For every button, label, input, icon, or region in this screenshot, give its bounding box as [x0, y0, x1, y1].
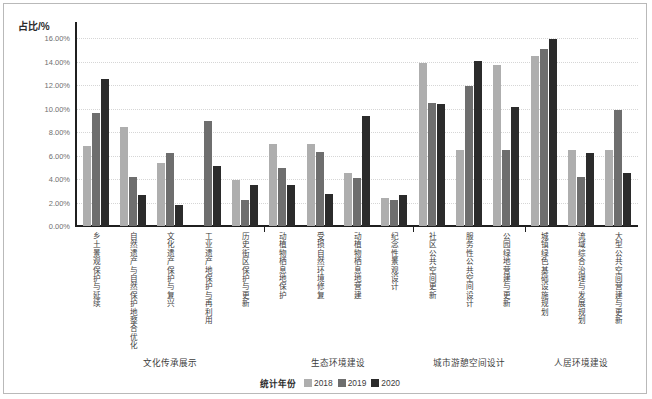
group-label: 城市游憩空间设计 — [433, 356, 505, 368]
legend: 统计年份 201820192020 — [4, 377, 652, 389]
bar[interactable] — [399, 195, 407, 226]
bar-group — [413, 38, 450, 226]
bar[interactable] — [278, 168, 286, 226]
bar[interactable] — [511, 107, 519, 226]
bar[interactable] — [419, 63, 427, 226]
group-label: 人居环境建设 — [554, 356, 608, 368]
y-axis-tick-label: 12.00% — [12, 81, 70, 90]
bar[interactable] — [437, 104, 445, 226]
group-label: 文化传承展示 — [143, 356, 197, 368]
bar[interactable] — [213, 166, 221, 226]
x-axis-category-label: 受损自然环境修复 — [316, 232, 324, 299]
bar[interactable] — [586, 153, 594, 226]
bar-group — [226, 38, 263, 226]
bar[interactable] — [175, 205, 183, 226]
bar-group — [301, 38, 338, 226]
bar[interactable] — [83, 146, 91, 226]
bar-group — [114, 38, 151, 226]
x-axis-category-label: 社区公共空间更新 — [428, 232, 436, 299]
bar-group — [562, 38, 599, 226]
y-axis-tick-label: 6.00% — [12, 152, 70, 161]
x-axis-category-label: 城镇绿色基础设施规划 — [540, 232, 548, 316]
bar[interactable] — [92, 113, 100, 226]
x-axis-category-label: 纪念性景观设计 — [390, 232, 398, 291]
bar[interactable] — [129, 177, 137, 226]
bar[interactable] — [493, 65, 501, 226]
bar[interactable] — [605, 150, 613, 226]
bar[interactable] — [549, 39, 557, 226]
bar[interactable] — [250, 185, 258, 226]
bar-group — [338, 38, 375, 226]
legend-swatch — [371, 379, 379, 387]
bar[interactable] — [101, 79, 109, 226]
legend-item[interactable]: 2020 — [371, 378, 400, 388]
y-axis-tick-label: 0.00% — [12, 222, 70, 231]
bar-group — [376, 38, 413, 226]
x-axis-category-labels: 乡土景观保护与延续自然遗产与自然保护地整合优化文化遗产保护与复兴工业遗产地保护与… — [77, 232, 637, 344]
y-axis-title: 占比/% — [18, 18, 50, 33]
x-axis-category-label: 公园绿地营建与更新 — [502, 232, 510, 308]
bar-group — [525, 38, 562, 226]
y-axis-tick-label: 16.00% — [12, 34, 70, 43]
bar[interactable] — [465, 86, 473, 226]
bar[interactable] — [428, 103, 436, 226]
bar-group — [488, 38, 525, 226]
legend-item[interactable]: 2018 — [304, 378, 333, 388]
bar[interactable] — [390, 200, 398, 226]
x-axis-category-label: 工业遗产地保护与再利用 — [204, 232, 212, 324]
bar[interactable] — [325, 194, 333, 226]
bar[interactable] — [577, 177, 585, 226]
bar[interactable] — [614, 110, 622, 226]
x-axis-category-label: 动植物栖息地保护 — [278, 232, 286, 299]
bar[interactable] — [381, 198, 389, 226]
bar[interactable] — [344, 173, 352, 226]
legend-label: 2019 — [348, 378, 367, 388]
bar[interactable] — [138, 195, 146, 226]
bar[interactable] — [120, 127, 128, 226]
bar[interactable] — [531, 56, 539, 226]
legend-swatch — [304, 379, 312, 387]
bar-group — [77, 38, 114, 226]
bar[interactable] — [540, 49, 548, 226]
bar-group — [189, 38, 226, 226]
bar-group — [152, 38, 189, 226]
y-axis-tick-label: 4.00% — [12, 175, 70, 184]
y-axis-tick-label: 10.00% — [12, 105, 70, 114]
bar[interactable] — [287, 185, 295, 226]
x-axis-category-label: 自然遗产与自然保护地整合优化 — [129, 232, 137, 350]
legend-item[interactable]: 2019 — [338, 378, 367, 388]
bar[interactable] — [166, 153, 174, 226]
x-axis-category-label: 服务性公共空间设计 — [465, 232, 473, 308]
x-axis-category-label: 流域综合治理与发展规划 — [577, 232, 585, 324]
bar-group — [600, 38, 637, 226]
legend-label: 2018 — [314, 378, 333, 388]
x-axis-category-label: 乡土景观保护与延续 — [92, 232, 100, 308]
bar[interactable] — [568, 150, 576, 226]
bar[interactable] — [474, 61, 482, 226]
bar-group — [450, 38, 487, 226]
group-labels: 文化传承展示生态环境建设城市游憩空间设计人居环境建设 — [4, 356, 652, 370]
bar[interactable] — [269, 144, 277, 226]
bars-layer — [77, 38, 637, 226]
bar[interactable] — [157, 163, 165, 226]
bar[interactable] — [353, 178, 361, 226]
x-axis-category-label: 文化遗产保护与复兴 — [166, 232, 174, 308]
bar[interactable] — [204, 121, 212, 226]
bar[interactable] — [241, 200, 249, 226]
bar[interactable] — [316, 152, 324, 226]
bar[interactable] — [456, 150, 464, 226]
y-axis-tick-label: 14.00% — [12, 58, 70, 67]
x-axis-category-label: 动植物栖息地营建 — [353, 232, 361, 299]
bar[interactable] — [502, 150, 510, 226]
y-axis-tick-label: 2.00% — [12, 199, 70, 208]
legend-title: 统计年份 — [260, 377, 296, 389]
legend-label: 2020 — [381, 378, 400, 388]
group-label: 生态环境建设 — [311, 356, 365, 368]
x-axis-category-label: 历史街区保护与更新 — [241, 232, 249, 308]
bar[interactable] — [232, 180, 240, 226]
bar[interactable] — [307, 144, 315, 226]
legend-swatch — [338, 379, 346, 387]
bar[interactable] — [623, 173, 631, 226]
bar[interactable] — [362, 116, 370, 226]
chart-frame: 占比/% 0.00%2.00%4.00%6.00%8.00%10.00%12.0… — [3, 3, 647, 394]
